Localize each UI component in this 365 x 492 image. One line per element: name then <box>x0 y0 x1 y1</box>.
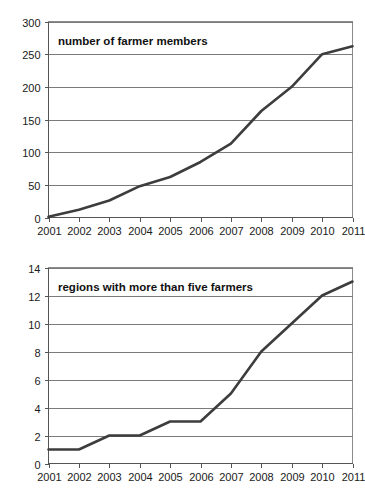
figure-page: 050100150200250300 200120022003200420052… <box>0 0 365 492</box>
series-line-bottom <box>49 282 353 450</box>
chart-farmer-members: 050100150200250300 200120022003200420052… <box>0 0 365 246</box>
x-tick-label-2001: 2001 <box>37 225 61 237</box>
y-tick-label-0: 0 <box>34 459 40 471</box>
x-tick-label-2007: 2007 <box>219 471 243 483</box>
y-tick-label-50: 50 <box>28 180 40 192</box>
y-tick-label-2: 2 <box>34 431 40 443</box>
x-tick-label-2011: 2011 <box>342 225 365 237</box>
y-tick-label-14: 14 <box>28 263 40 275</box>
plot-frame-top <box>49 22 353 218</box>
y-tick-label-300: 300 <box>22 17 40 29</box>
x-tick-label-2002: 2002 <box>67 225 91 237</box>
x-tick-label-2009: 2009 <box>280 225 304 237</box>
series-line-top <box>49 46 353 217</box>
chart-title-top: number of farmer members <box>58 35 208 47</box>
y-tick-label-250: 250 <box>22 49 40 61</box>
chart-title-bottom: regions with more than five farmers <box>58 281 253 293</box>
x-tick-label-2006: 2006 <box>189 471 213 483</box>
y-axis-ticks-bottom: 02468101214 <box>28 263 48 471</box>
x-tick-label-2004: 2004 <box>128 471 152 483</box>
x-tick-label-2003: 2003 <box>97 471 121 483</box>
gridlines-bottom <box>49 269 353 437</box>
x-tick-label-2011: 2011 <box>342 471 365 483</box>
x-tick-label-2002: 2002 <box>67 471 91 483</box>
x-tick-label-2009: 2009 <box>280 471 304 483</box>
x-tick-label-2001: 2001 <box>37 471 61 483</box>
chart-regions-canvas: 02468101214 2001200220032004200520062007… <box>0 246 365 492</box>
y-tick-label-10: 10 <box>28 319 40 331</box>
y-tick-label-200: 200 <box>22 82 40 94</box>
y-tick-label-150: 150 <box>22 115 40 127</box>
chart-farmer-members-canvas: 050100150200250300 200120022003200420052… <box>0 0 365 246</box>
chart-regions-five-farmers: 02468101214 2001200220032004200520062007… <box>0 246 365 492</box>
x-tick-label-2008: 2008 <box>249 225 273 237</box>
y-tick-label-12: 12 <box>28 291 40 303</box>
x-tick-label-2004: 2004 <box>128 225 152 237</box>
y-tick-label-0: 0 <box>34 213 40 225</box>
x-tick-label-2003: 2003 <box>97 225 121 237</box>
x-tick-label-2005: 2005 <box>158 471 182 483</box>
y-tick-label-6: 6 <box>34 375 40 387</box>
y-tick-label-4: 4 <box>34 403 40 415</box>
y-tick-label-100: 100 <box>22 147 40 159</box>
x-tick-label-2006: 2006 <box>189 225 213 237</box>
y-tick-label-8: 8 <box>34 347 40 359</box>
x-tick-label-2010: 2010 <box>310 471 334 483</box>
x-tick-label-2007: 2007 <box>219 225 243 237</box>
x-axis-ticks-bottom: 2001200220032004200520062007200820092010… <box>37 464 365 483</box>
x-tick-label-2010: 2010 <box>310 225 334 237</box>
y-axis-ticks-top: 050100150200250300 <box>22 17 48 225</box>
x-tick-label-2008: 2008 <box>249 471 273 483</box>
x-tick-label-2005: 2005 <box>158 225 182 237</box>
x-axis-ticks-top: 2001200220032004200520062007200820092010… <box>37 218 365 237</box>
